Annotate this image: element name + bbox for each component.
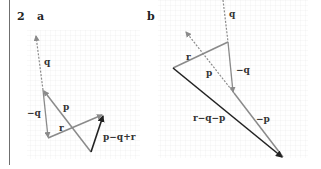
label-neg-p-b: −p [256,114,270,124]
vector-diagrams: q −q p r p−q+r q −q r p −p r−q−p [0,0,321,169]
label-q-a: q [44,57,51,67]
label-r-b: r [186,52,191,62]
panel-b: q −q r p −p r−q−p [158,0,308,158]
label-result-b: r−q−p [193,113,225,123]
panel-a: q −q p r p−q+r [27,30,140,159]
label-neg-q-b: −q [236,65,251,75]
label-p-b: p [206,68,212,78]
label-q-b: q [229,9,236,19]
label-neg-q-a: −q [27,108,42,118]
label-p-a: p [63,102,69,112]
label-result-a: p−q+r [103,132,136,142]
label-r-a: r [59,123,64,133]
grid-b [158,0,308,158]
